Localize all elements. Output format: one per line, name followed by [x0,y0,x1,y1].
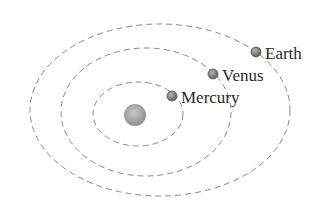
planet-earth: Earth [251,44,302,63]
venus-icon [208,69,218,79]
earth-orbit [30,24,290,196]
solar-system-diagram: Mercury Venus Earth [0,0,334,203]
planet-mercury: Mercury [167,88,240,107]
venus-orbit [61,48,231,176]
planet-venus: Venus [208,66,264,85]
sun-icon [124,104,146,126]
mercury-label: Mercury [181,88,240,107]
earth-label: Earth [265,44,302,63]
venus-label: Venus [222,66,264,85]
diagram-canvas: Mercury Venus Earth [0,0,334,203]
mercury-icon [167,91,177,101]
earth-icon [251,47,261,57]
